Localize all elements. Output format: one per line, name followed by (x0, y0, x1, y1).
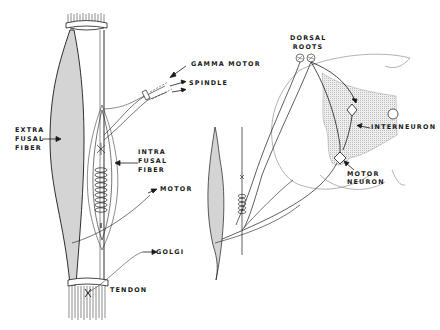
label-tendon: TENDON (110, 286, 147, 295)
label-extrafusal-line3: FIBER (15, 144, 42, 153)
extrafusal-fiber (50, 30, 84, 285)
nerve-bundle (104, 86, 165, 135)
label-interneuron: INTERNEURON (371, 123, 436, 132)
label-extrafusal-line2: FUSAL (15, 135, 44, 144)
motor-efferent (220, 163, 337, 240)
spindle-capsule (93, 110, 112, 240)
intrafusal-coil (95, 168, 107, 212)
label-dorsal-roots-line1: DORSAL (290, 34, 326, 43)
central-canal (388, 109, 398, 119)
muscle-spindle-reflex-diagram (0, 0, 440, 330)
small-extrafusal-fiber (208, 127, 224, 280)
label-spindle: SPINDLE (189, 79, 228, 88)
label-intrafusal-line2: FUSAL (138, 157, 167, 166)
label-intrafusal-line1: INTRA (138, 148, 166, 157)
label-golgi: GOLGI (156, 248, 184, 257)
small-muscle (208, 127, 300, 280)
spinal-cord-panel (220, 54, 410, 240)
label-intrafusal-line3: FIBER (138, 166, 165, 175)
label-motor: MOTOR (160, 185, 193, 194)
grey-matter (322, 73, 397, 165)
label-motor-neuron-line2: NEURON (347, 178, 385, 187)
bottom-tendon-cap (68, 278, 108, 286)
label-extrafusal-line1: EXTRA (15, 126, 45, 135)
motor-nerve (72, 195, 150, 243)
label-gamma-motor: GAMMA MOTOR (191, 60, 261, 69)
label-dorsal-roots-line2: ROOTS (290, 43, 326, 52)
nerve-sheath-band (142, 90, 150, 100)
top-tendon-cap (66, 21, 107, 29)
